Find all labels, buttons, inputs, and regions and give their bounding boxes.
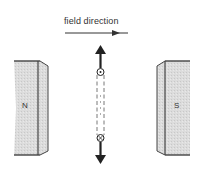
south-pole-label: S: [174, 101, 179, 110]
down-force-arrow-icon: [95, 142, 106, 164]
conductor-loop: [97, 75, 104, 135]
diagram-canvas: N S: [0, 0, 202, 170]
up-force-arrow-icon: [95, 45, 106, 68]
north-pole-label: N: [22, 101, 28, 110]
north-magnet: [14, 61, 48, 155]
field-direction-arrow-icon: [65, 30, 128, 36]
current-in-icon: [97, 135, 104, 142]
current-out-icon: [97, 69, 104, 76]
